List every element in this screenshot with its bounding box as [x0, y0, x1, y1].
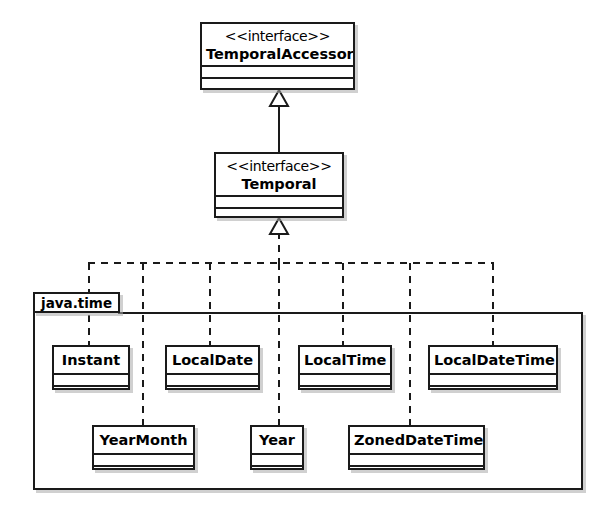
generalization-temporal-to-temporalaccessor — [270, 90, 288, 152]
operations-compartment — [430, 385, 556, 397]
attributes-compartment — [94, 453, 193, 465]
class-year[interactable]: Year — [250, 425, 304, 470]
operations-compartment — [202, 77, 353, 89]
operations-compartment — [252, 465, 302, 477]
interface-temporal-header: <<interface>> Temporal — [216, 154, 342, 195]
attributes-compartment — [252, 453, 302, 465]
class-name: Year — [252, 427, 302, 453]
package-label: java.time — [41, 295, 112, 311]
operations-compartment — [216, 207, 342, 219]
class-name: LocalDate — [167, 347, 258, 373]
uml-diagram-canvas: java.time <<interface>> TemporalAccessor… — [0, 0, 608, 530]
attributes-compartment — [430, 373, 556, 385]
stereotype-label: <<interface>> — [220, 159, 338, 175]
attributes-compartment — [54, 373, 128, 385]
interface-name: TemporalAccessor — [206, 46, 349, 62]
attributes-compartment — [350, 453, 483, 465]
operations-compartment — [167, 385, 258, 397]
attributes-compartment — [202, 65, 353, 77]
interface-temporal[interactable]: <<interface>> Temporal — [214, 152, 344, 218]
class-instant[interactable]: Instant — [52, 345, 130, 390]
class-localtime[interactable]: LocalTime — [298, 345, 392, 390]
interface-temporalaccessor-header: <<interface>> TemporalAccessor — [202, 24, 353, 65]
class-name: Instant — [54, 347, 128, 373]
attributes-compartment — [216, 195, 342, 207]
class-zoneddatetime[interactable]: ZonedDateTime — [348, 425, 485, 470]
class-localdate[interactable]: LocalDate — [165, 345, 260, 390]
class-name: YearMonth — [94, 427, 193, 453]
operations-compartment — [94, 465, 193, 477]
operations-compartment — [54, 385, 128, 397]
operations-compartment — [350, 465, 483, 477]
class-yearmonth[interactable]: YearMonth — [92, 425, 195, 470]
realization-arrowhead — [270, 218, 288, 234]
interface-name: Temporal — [220, 176, 338, 192]
interface-temporalaccessor[interactable]: <<interface>> TemporalAccessor — [200, 22, 355, 90]
operations-compartment — [300, 385, 390, 397]
attributes-compartment — [300, 373, 390, 385]
stereotype-label: <<interface>> — [206, 29, 349, 45]
class-name: LocalTime — [300, 347, 390, 373]
class-name: LocalDateTime — [430, 347, 556, 373]
attributes-compartment — [167, 373, 258, 385]
class-name: ZonedDateTime — [350, 427, 483, 453]
package-tab-java-time: java.time — [33, 292, 120, 313]
class-localdatetime[interactable]: LocalDateTime — [428, 345, 558, 390]
